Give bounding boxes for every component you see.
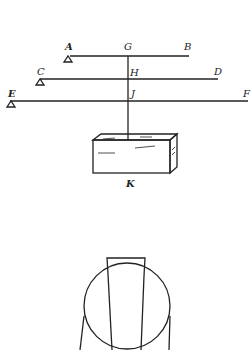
label-d: D (213, 66, 222, 77)
lower-figure (80, 258, 170, 350)
lever-diagram: A G B C H D E J F K (0, 0, 251, 350)
fulcrum-e-icon (7, 101, 15, 107)
label-g: G (124, 41, 132, 52)
fulcrum-a-icon (64, 56, 72, 62)
label-b: B (183, 41, 191, 52)
fulcrum-c-icon (36, 79, 44, 85)
weight-box (93, 134, 177, 173)
label-f: F (242, 88, 251, 99)
label-a: A (64, 41, 73, 52)
label-c: C (37, 66, 45, 77)
label-k: K (125, 178, 136, 189)
label-j: J (129, 88, 136, 99)
label-e: E (7, 88, 16, 99)
label-h: H (129, 67, 139, 78)
